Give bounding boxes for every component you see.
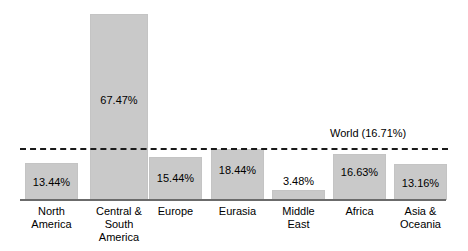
- category-label-line: Middle: [272, 205, 325, 218]
- category-label-line: Africa: [333, 205, 386, 218]
- category-label-line: North: [25, 205, 78, 218]
- bar-group-eurasia: 18.44%: [211, 0, 264, 200]
- category-label-line: South: [88, 218, 150, 231]
- bar-group-europe: 15.44%: [149, 0, 202, 200]
- world-average-reference-line: [20, 148, 448, 150]
- bar-group-north-america: 13.44%: [25, 0, 78, 200]
- bar-group-africa: 16.63%: [333, 0, 386, 200]
- bar-group-middle-east: 3.48%: [272, 0, 325, 200]
- category-label-line: Europe: [149, 205, 202, 218]
- category-label-line: East: [272, 218, 325, 231]
- bar-central-south-america[interactable]: [90, 14, 148, 200]
- category-label-north-america: North America: [25, 205, 78, 231]
- category-label-eurasia: Eurasia: [211, 205, 264, 218]
- bar-value-eurasia: 18.44%: [211, 164, 264, 176]
- bar-chart: 13.44% 67.47% 15.44% 18.44% 3.48% 16.63%…: [0, 0, 468, 251]
- bar-value-central-south-america: 67.47%: [90, 94, 148, 106]
- bar-group-central-south-america: 67.47%: [90, 0, 148, 200]
- bar-value-middle-east: 3.48%: [272, 175, 325, 187]
- bar-group-asia-oceania: 13.16%: [394, 0, 447, 200]
- x-axis-baseline: [20, 199, 446, 201]
- bar-value-africa: 16.63%: [333, 166, 386, 178]
- category-label-line: America: [25, 218, 78, 231]
- category-label-line: Central &: [88, 205, 150, 218]
- plot-area: 13.44% 67.47% 15.44% 18.44% 3.48% 16.63%…: [0, 0, 468, 200]
- category-label-line: America: [88, 231, 150, 244]
- category-label-line: Asia &: [392, 205, 449, 218]
- bar-value-north-america: 13.44%: [25, 176, 78, 188]
- category-label-middle-east: Middle East: [272, 205, 325, 231]
- category-axis-labels: North America Central & South America Eu…: [0, 205, 468, 251]
- category-label-europe: Europe: [149, 205, 202, 218]
- category-label-central-south-america: Central & South America: [88, 205, 150, 244]
- world-average-label: World (16.71%): [330, 127, 406, 140]
- bar-value-europe: 15.44%: [149, 172, 202, 184]
- category-label-line: Eurasia: [211, 205, 264, 218]
- category-label-asia-oceania: Asia & Oceania: [392, 205, 449, 231]
- bar-value-asia-oceania: 13.16%: [394, 177, 447, 189]
- category-label-line: Oceania: [392, 218, 449, 231]
- category-label-africa: Africa: [333, 205, 386, 218]
